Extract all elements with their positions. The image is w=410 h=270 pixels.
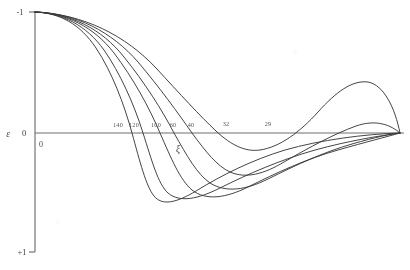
crossing-label-29: 29 <box>265 120 272 127</box>
y-axis-title: ε <box>6 129 10 139</box>
crossing-label-group: 140 120 100 60 40 32 29 <box>113 120 271 128</box>
curve-32 <box>35 12 400 150</box>
curve-40 <box>35 12 400 175</box>
line-chart: -1 0 +1 ε 0 ξ 140 120 100 60 40 32 29 <box>0 0 410 270</box>
crossing-label-100: 100 <box>151 121 161 128</box>
crossing-label-40: 40 <box>188 121 195 128</box>
y-tick-label-zero: 0 <box>22 128 26 138</box>
crossing-label-60: 60 <box>170 121 177 128</box>
curve-140 <box>35 12 400 202</box>
crossing-label-32: 32 <box>223 120 230 127</box>
curve-group <box>35 12 400 202</box>
y-tick-label-bottom: +1 <box>17 247 26 257</box>
crossing-label-140: 140 <box>113 121 123 128</box>
x-axis-title: ξ <box>176 144 181 155</box>
curve-60 <box>35 12 400 189</box>
y-tick-label-top: -1 <box>16 7 23 17</box>
crossing-label-120: 120 <box>129 121 139 128</box>
origin-label: 0 <box>39 140 43 149</box>
figure-container: -1 0 +1 ε 0 ξ 140 120 100 60 40 32 29 <box>0 0 410 270</box>
